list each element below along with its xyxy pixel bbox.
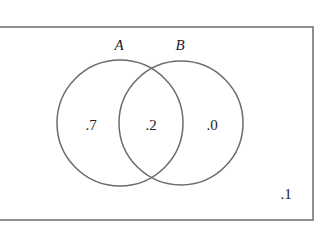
outside-value: .1 <box>280 186 291 202</box>
b-only-value: .0 <box>206 117 217 133</box>
set-a-label: A <box>113 37 124 53</box>
circle-b <box>119 61 243 185</box>
set-b-label: B <box>175 37 184 53</box>
a-only-value: .7 <box>85 117 97 133</box>
circle-a <box>57 60 183 186</box>
intersection-value: .2 <box>145 117 156 133</box>
venn-diagram: A B .7 .2 .0 .1 <box>0 0 328 230</box>
